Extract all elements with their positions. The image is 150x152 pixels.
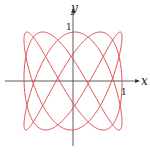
x-axis-label: x [141,74,148,88]
y-tick-label: 1 [66,22,72,32]
x-tick-label: 1 [121,87,127,97]
lissajous-plot: x y 1 1 [0,0,150,152]
y-axis-label: y [70,1,78,15]
